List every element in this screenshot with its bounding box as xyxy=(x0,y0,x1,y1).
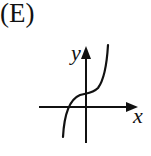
y-axis-arrow-icon xyxy=(81,46,91,59)
x-axis-label: x xyxy=(132,103,143,128)
y-axis-label: y xyxy=(69,40,81,65)
cubic-graph: y x xyxy=(0,0,151,156)
